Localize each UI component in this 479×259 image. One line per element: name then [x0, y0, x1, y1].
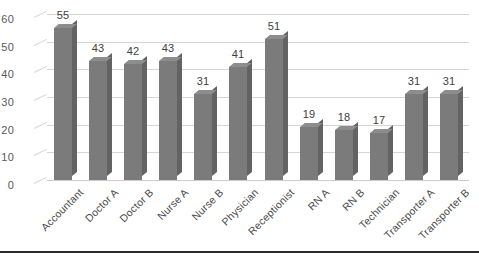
y-tick-label: 50 — [1, 41, 14, 53]
bar-column[interactable]: 31 — [440, 88, 458, 180]
plot-area: 554342433141511918173131 — [47, 14, 469, 180]
bar-side-face — [142, 56, 147, 176]
x-tick-label: Doctor B — [117, 186, 156, 225]
bar-front-face — [370, 133, 388, 180]
bar-column[interactable]: 31 — [405, 88, 423, 180]
bar-side-face — [388, 125, 393, 176]
bar-side-face — [72, 20, 77, 176]
bar-column[interactable]: 41 — [229, 61, 247, 180]
bar-column[interactable]: 55 — [54, 22, 72, 180]
figure-bottom-rule — [0, 251, 479, 253]
y-tick-label: 10 — [1, 151, 14, 163]
y-tick-label: 30 — [1, 96, 14, 108]
bar-value-label: 31 — [408, 75, 421, 87]
bar-side-face — [212, 86, 217, 176]
x-tick-label: Nurse A — [155, 186, 191, 222]
bar-side-face — [283, 31, 288, 176]
y-tick-label: 60 — [1, 13, 14, 25]
bar-value-label: 43 — [162, 42, 175, 54]
bar-value-label: 41 — [232, 48, 245, 60]
bar-column[interactable]: 42 — [124, 58, 142, 180]
bar-column[interactable]: 17 — [370, 127, 388, 180]
bar-value-label: 18 — [338, 111, 351, 123]
bar-front-face — [159, 61, 177, 180]
bar-value-label: 43 — [92, 42, 105, 54]
bar-column[interactable]: 51 — [265, 33, 283, 180]
gridline — [47, 180, 469, 181]
x-tick-label: RN B — [340, 186, 367, 213]
bar-front-face — [229, 67, 247, 180]
bar-front-face — [405, 94, 423, 180]
bar-side-face — [177, 53, 182, 176]
bar-front-face — [335, 130, 353, 180]
bar-front-face — [124, 64, 142, 180]
x-axis: AccountantDoctor ADoctor BNurse ANurse B… — [47, 186, 469, 252]
bar-value-label: 31 — [443, 75, 456, 87]
bar-side-face — [318, 120, 323, 176]
bar-front-face — [54, 28, 72, 180]
bar-side-face — [458, 86, 463, 176]
bar-value-label: 19 — [303, 108, 316, 120]
y-tick-label: 0 — [8, 179, 14, 191]
bar-side-face — [107, 53, 112, 176]
bar-column[interactable]: 19 — [300, 121, 318, 180]
bar-value-label: 17 — [373, 114, 386, 126]
bar-front-face — [89, 61, 107, 180]
bar-side-face — [247, 59, 252, 176]
bar-side-face — [423, 86, 428, 176]
y-tick-label: 20 — [1, 124, 14, 136]
bars-layer: 554342433141511918173131 — [47, 14, 469, 180]
bar-value-label: 51 — [268, 20, 281, 32]
bar-column[interactable]: 43 — [89, 55, 107, 180]
bar-front-face — [440, 94, 458, 180]
x-tick-label: Doctor A — [82, 186, 120, 224]
x-tick-label: RN A — [305, 186, 331, 212]
bar-value-label: 42 — [127, 45, 140, 57]
bar-front-face — [300, 127, 318, 180]
bar-front-face — [194, 94, 212, 180]
bar-column[interactable]: 31 — [194, 88, 212, 180]
y-tick-label: 40 — [1, 68, 14, 80]
y-axis: 0102030405060 — [0, 0, 47, 259]
bar-column[interactable]: 43 — [159, 55, 177, 180]
bar-chart-figure: 554342433141511918173131 0102030405060 A… — [0, 0, 479, 259]
bar-value-label: 31 — [197, 75, 210, 87]
bar-column[interactable]: 18 — [335, 124, 353, 180]
bar-value-label: 55 — [57, 9, 70, 21]
bar-front-face — [265, 39, 283, 180]
bar-side-face — [353, 122, 358, 176]
